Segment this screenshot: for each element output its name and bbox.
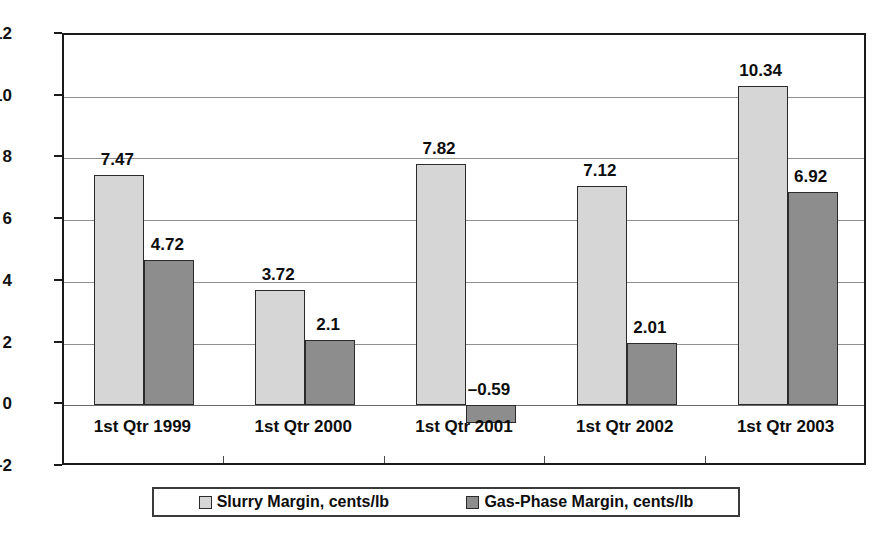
bar-value-label: –0.59 <box>454 381 524 398</box>
x-axis-category-label: 1st Qtr 2002 <box>544 418 705 435</box>
legend-label: Slurry Margin, cents/lb <box>217 494 389 510</box>
x-axis-tick-mark <box>384 456 385 463</box>
y-axis-tick-mark <box>54 402 62 404</box>
y-axis-tick-mark <box>54 341 62 343</box>
bar-value-label: 7.12 <box>565 162 635 179</box>
bar-value-label: 2.01 <box>615 319 685 336</box>
bar-gas-phase <box>627 343 677 405</box>
bar-gas-phase <box>305 340 355 405</box>
y-axis-tick-label: 8 <box>0 148 12 165</box>
y-axis-tick-mark <box>54 155 62 157</box>
x-axis-category-label: 1st Qtr 2000 <box>223 418 384 435</box>
y-axis-tick-label: –2 <box>0 457 12 474</box>
y-axis-tick-label: 6 <box>0 210 12 227</box>
y-axis-tick-label: 10 <box>0 87 12 104</box>
bar-slurry <box>255 290 305 405</box>
y-axis-tick-mark <box>54 464 62 466</box>
chart-legend: Slurry Margin, cents/lbGas-Phase Margin,… <box>152 487 740 517</box>
bar-slurry <box>738 86 788 405</box>
y-axis-tick-mark <box>54 94 62 96</box>
bar-value-label: 4.72 <box>132 236 202 253</box>
legend-swatch-icon <box>199 496 212 509</box>
zero-gridline <box>64 405 864 406</box>
x-axis-category-label: 1st Qtr 1999 <box>62 418 223 435</box>
bar-slurry <box>577 186 627 406</box>
y-axis-tick-label: 4 <box>0 272 12 289</box>
y-axis-tick-label: 12 <box>0 25 12 42</box>
x-axis-category-label: 1st Qtr 2003 <box>705 418 866 435</box>
legend-swatch-icon <box>466 496 479 509</box>
legend-item: Slurry Margin, cents/lb <box>199 494 389 510</box>
bar-value-label: 7.47 <box>82 151 152 168</box>
bar-slurry <box>94 175 144 406</box>
bar-slurry <box>416 164 466 405</box>
y-axis-tick-mark <box>54 279 62 281</box>
bar-gas-phase <box>788 192 838 406</box>
bar-value-label: 7.82 <box>404 140 474 157</box>
y-axis-tick-label: 2 <box>0 334 12 351</box>
y-axis-tick-mark <box>54 32 62 34</box>
bar-chart: –2024681012 1st Qtr 19991st Qtr 20001st … <box>0 0 890 538</box>
x-axis-tick-mark <box>544 456 545 463</box>
y-axis-tick-label: 0 <box>0 395 12 412</box>
y-axis-tick-mark <box>54 217 62 219</box>
bar-value-label: 6.92 <box>776 168 846 185</box>
legend-item: Gas-Phase Margin, cents/lb <box>466 494 693 510</box>
bar-value-label: 3.72 <box>243 266 313 283</box>
legend-label: Gas-Phase Margin, cents/lb <box>484 494 693 510</box>
x-axis-category-label: 1st Qtr 2001 <box>384 418 545 435</box>
x-axis-tick-mark <box>223 456 224 463</box>
x-axis-tick-mark <box>705 456 706 463</box>
bar-value-label: 2.1 <box>293 316 363 333</box>
bar-gas-phase <box>144 260 194 406</box>
bar-value-label: 10.34 <box>726 62 796 79</box>
